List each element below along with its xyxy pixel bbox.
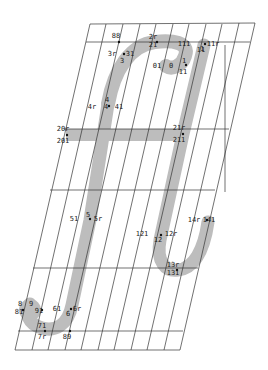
point-label-13r: 13r — [167, 261, 180, 269]
point-label-111: 111 — [178, 40, 191, 48]
point-label-4c: 4 — [104, 103, 108, 111]
point-label-3r: 3r — [108, 50, 116, 58]
point-label-211: 211 — [173, 136, 186, 144]
point-label-7r: 7r — [38, 333, 46, 341]
point-label-2r: 2r — [149, 33, 157, 41]
control-point — [182, 133, 184, 135]
point-label-12: 12 — [154, 236, 162, 244]
point-label-201: 201 — [57, 137, 70, 145]
point-label-12r: 12r — [165, 230, 178, 238]
point-label-81: 81 — [15, 308, 23, 316]
point-label-11: 11 — [197, 46, 205, 54]
point-label-31: 31 — [126, 50, 134, 58]
point-label-6r: 6r — [73, 305, 81, 313]
point-label-131: 131 — [167, 269, 180, 277]
point-label-21: 21 — [149, 41, 157, 49]
point-label-41: 41 — [115, 103, 123, 111]
glyph-stroke — [19, 41, 208, 329]
control-point — [66, 134, 68, 136]
point-label-3: 3 — [120, 57, 124, 65]
grid — [15, 23, 255, 350]
point-label-i1: 11 — [179, 68, 187, 76]
point-label-14r: 14r — [188, 216, 201, 224]
point-label-6: 6 — [66, 310, 70, 318]
point-label-71: 71 — [38, 322, 46, 330]
control-point — [69, 330, 71, 332]
control-point — [108, 105, 110, 107]
point-label-4r: 4r — [88, 103, 96, 111]
point-label-51: 51 — [70, 215, 78, 223]
point-label-0: 0 — [169, 62, 173, 70]
point-label-5r: 5r — [94, 215, 102, 223]
point-label-141: 141 — [203, 216, 216, 224]
point-label-20r: 20r — [57, 125, 70, 133]
point-label-9: 9 — [29, 300, 33, 308]
control-point — [44, 330, 46, 332]
point-label-121: 121 — [136, 230, 149, 238]
point-label-21r: 21r — [173, 124, 186, 132]
point-label-5: 5 — [86, 211, 90, 219]
point-label-8: 8 — [18, 300, 22, 308]
point-label-91: 91 — [35, 307, 43, 315]
point-label-01: 01 — [153, 62, 161, 70]
point-label-89: 89 — [63, 333, 71, 341]
glyph-diagram: 882r213r31311111r1110101114r444120r20121… — [0, 0, 268, 370]
control-point — [118, 41, 120, 43]
point-label-61: 61 — [53, 305, 61, 313]
point-label-i: 1 — [182, 57, 186, 65]
point-label-11r: 11r — [207, 40, 220, 48]
point-label-88: 88 — [112, 32, 120, 40]
